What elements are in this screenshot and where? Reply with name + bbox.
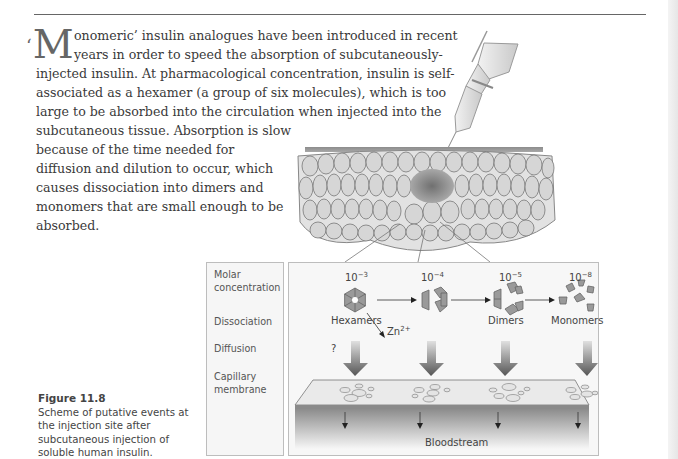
conc-exponent: −4 [434,271,444,279]
monomer-icon [559,280,594,311]
paragraph-line: associated as a hexamer (a group of six … [36,83,396,102]
label-monomers: Monomers [551,315,603,326]
concentration-intermediate: 10−4 [421,271,444,283]
concentration-hexamer: 10−3 [345,271,368,283]
conc-exponent: −3 [358,271,368,279]
bloodstream-label: Bloodstream [425,437,488,448]
partial-hexamer-icon [422,287,447,312]
caption-line: soluble human insulin. [38,446,198,459]
paragraph-line: large to be absorbed into the circulatio… [36,102,396,121]
paragraph-line: because of the time needed for [36,140,396,159]
concentration-monomer: 10−8 [569,271,592,283]
concentration-dimer: 10−5 [499,271,522,283]
dimer-icon [494,282,523,315]
conc-base: 10 [345,272,358,283]
paragraph-line: injected insulin. At pharmacological con… [36,64,396,83]
paragraph-line: years in order to speed the absorption o… [36,45,396,64]
paragraph-line: diffusion and dilution to occur, which [36,159,396,178]
row-labels-panel: Molar concentration Dissociation Diffusi… [206,262,284,456]
question-mark: ? [331,343,336,354]
paragraph-line: monomers that are small enough to be [36,197,396,216]
figure-number: Figure 11.8 [38,392,198,406]
figure-caption: Figure 11.8 Scheme of putative events at… [38,392,198,459]
label-line: membrane [214,384,267,397]
label-dissociation: Dissociation [214,316,272,329]
paragraph-line: causes dissociation into dimers and [36,178,396,197]
dissociation-diagram: 10−3 10−4 10−5 10−8 Hexamers Dimers Mono… [288,262,599,456]
zinc-symbol: Zn [387,326,400,337]
body-paragraph: onomeric’ insulin analogues have been in… [36,26,396,235]
label-diffusion: Diffusion [214,343,256,356]
dropcap-quote: ‘ [26,35,32,56]
conc-base: 10 [499,272,512,283]
caption-line: Scheme of putative events at [38,406,198,420]
label-dimers: Dimers [488,315,524,326]
diagram-graphics [289,263,598,455]
zinc-charge: 2+ [400,325,410,333]
conc-base: 10 [421,272,434,283]
label-molar-concentration: Molar concentration [214,269,280,294]
hexamer-icon [345,288,366,312]
label-hexamers: Hexamers [331,315,382,326]
conc-exponent: −8 [582,271,592,279]
caption-line: the injection site after [38,419,198,433]
caption-line: subcutaneous injection of [38,433,198,447]
page-edge-shadow [668,0,678,459]
zinc-label: Zn2+ [387,325,411,337]
header-rule [34,14,646,15]
label-line: concentration [214,282,280,295]
label-line: Molar [214,269,280,282]
diffusion-arrows [343,341,598,376]
label-capillary-membrane: Capillary membrane [214,371,267,396]
paragraph-line: absorbed. [36,216,396,235]
paragraph-line: onomeric’ insulin analogues have been in… [36,26,396,45]
syringe-icon [448,31,518,148]
conc-exponent: −5 [512,271,522,279]
label-line: Capillary [214,371,267,384]
conc-base: 10 [569,272,582,283]
paragraph-line: subcutaneous tissue. Absorption is slow [36,121,396,140]
